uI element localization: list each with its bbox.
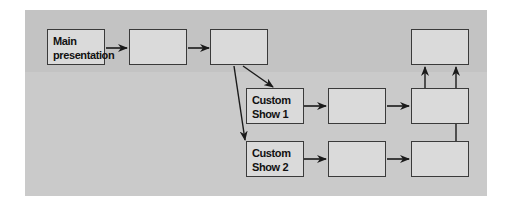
node-label-line: Show 1 bbox=[252, 107, 291, 121]
node-label-line: Show 2 bbox=[252, 160, 291, 174]
node-custom-show-1: Custom Show 1 bbox=[246, 88, 304, 124]
node-main-presentation: Main presentation bbox=[47, 29, 105, 65]
node-main-step-3 bbox=[210, 29, 268, 65]
arrow-main3-to-cs2 bbox=[234, 66, 245, 140]
node-custom-show-2: Custom Show 2 bbox=[246, 141, 304, 177]
node-custom-show-2-step-2 bbox=[328, 141, 386, 177]
node-custom-show-2-step-3 bbox=[411, 141, 469, 177]
node-custom-show-1-step-3 bbox=[411, 88, 469, 124]
node-custom-show-1-step-2 bbox=[328, 88, 386, 124]
node-main-end bbox=[411, 29, 469, 65]
arrow-main3-to-cs1 bbox=[243, 66, 273, 87]
node-label-line: Custom bbox=[252, 93, 291, 107]
node-main-step-2 bbox=[129, 29, 187, 65]
node-label-line: Custom bbox=[252, 146, 291, 160]
node-label-line: presentation bbox=[53, 48, 114, 62]
node-label-line: Main bbox=[53, 34, 114, 48]
